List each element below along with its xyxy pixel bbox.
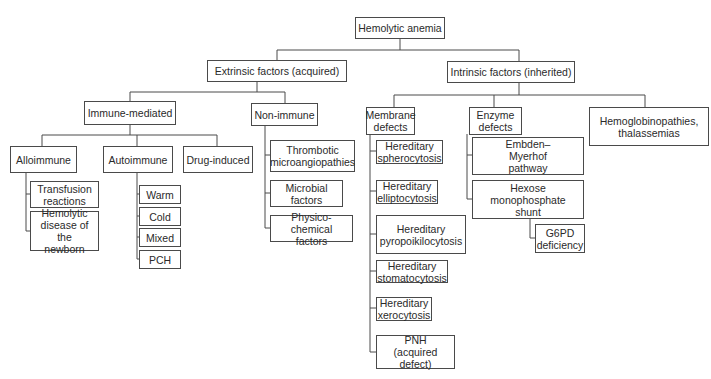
node-warm: Warm — [139, 185, 181, 204]
node-cold: Cold — [139, 207, 181, 226]
node-pch: PCH — [139, 250, 181, 269]
node-transfusion-reactions: Transfusion reactions — [30, 181, 99, 208]
node-thrombotic-microangiopathies: Thrombotic microangiopathies — [270, 140, 355, 172]
node-hereditary-pyropoikilocytosis: Hereditary pyropoikilocytosis — [376, 215, 466, 254]
node-physico-chemical-factors: Physico-chemical factors — [270, 215, 353, 242]
node-autoimmune: Autoimmune — [103, 146, 173, 173]
node-intrinsic-factors: Intrinsic factors (inherited) — [447, 61, 575, 83]
node-hemolytic-anemia: Hemolytic anemia — [355, 17, 445, 39]
node-hereditary-elliptocytosis: Hereditary elliptocytosis — [376, 180, 438, 204]
node-mixed: Mixed — [139, 228, 181, 247]
node-g6pd-deficiency: G6PD deficiency — [535, 224, 585, 253]
node-drug-induced: Drug-induced — [183, 146, 253, 173]
node-immune-mediated: Immune-mediated — [84, 101, 176, 125]
node-hemoglobinopathies: Hemoglobinopathies, thalassemias — [589, 107, 709, 146]
node-hexose-monophosphate-shunt: Hexose monophosphate shunt — [472, 180, 584, 219]
node-hemolytic-disease-newborn: Hemolytic disease of the newborn — [30, 211, 99, 251]
node-alloimmune: Alloimmune — [10, 146, 77, 173]
node-extrinsic-factors: Extrinsic factors (acquired) — [207, 60, 347, 82]
node-non-immune: Non-immune — [251, 103, 318, 126]
node-microbial-factors: Microbial factors — [270, 180, 343, 207]
node-pnh: PNH (acquired defect) — [376, 335, 455, 369]
node-hereditary-spherocytosis: Hereditary spherocytosis — [376, 140, 443, 164]
node-membrane-defects: Membrane defects — [366, 107, 415, 135]
connector-lines — [0, 0, 711, 379]
node-embden-myerhof-pathway: Embden– Myerhof pathway — [472, 137, 584, 175]
node-hereditary-xerocytosis: Hereditary xerocytosis — [376, 297, 432, 321]
node-hereditary-stomatocytosis: Hereditary stomatocytosis — [376, 260, 448, 283]
node-enzyme-defects: Enzyme defects — [469, 107, 522, 135]
